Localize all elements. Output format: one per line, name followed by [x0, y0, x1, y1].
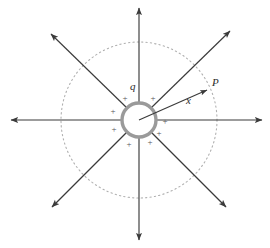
plus-sign-6: +	[156, 128, 161, 138]
plus-sign-4: +	[162, 116, 167, 126]
distance-label: x	[185, 94, 191, 106]
physics-figure-container: + + + + + + + + q P x	[0, 0, 270, 248]
plus-sign-8: +	[147, 137, 152, 147]
electric-field-diagram: + + + + + + + + q P x	[0, 0, 270, 248]
plus-sign-1: +	[122, 93, 127, 103]
plus-sign-5: +	[111, 124, 116, 134]
point-p-label: P	[211, 76, 219, 88]
plus-sign-3: +	[110, 106, 115, 116]
plus-sign-7: +	[126, 139, 131, 149]
field-line-lower-right	[151, 132, 226, 207]
field-line-lower-left	[52, 132, 127, 207]
plus-sign-2: +	[150, 93, 155, 103]
charge-label: q	[130, 80, 136, 92]
